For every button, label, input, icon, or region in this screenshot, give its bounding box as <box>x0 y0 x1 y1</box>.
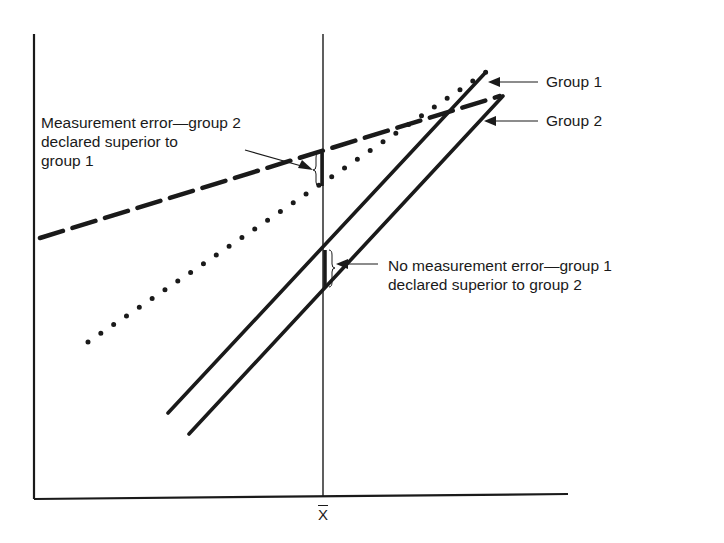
no-error-annotation-line2: declared superior to group 2 <box>388 275 582 294</box>
group2-arrowhead-icon <box>484 116 496 126</box>
group2-label: Group 2 <box>546 111 602 130</box>
x-axis <box>34 494 568 499</box>
measurement-error-brace-icon <box>313 153 319 186</box>
x-bar-tick-label: X <box>318 506 328 523</box>
measurement-error-annotation-line1: Measurement error—group 2 <box>41 113 241 132</box>
regression-diagram <box>0 0 724 543</box>
no-error-annotation-line1: No measurement error—group 1 <box>388 256 612 275</box>
group1-arrowhead-icon <box>488 77 500 87</box>
measurement-error-arrowhead-icon <box>298 160 313 170</box>
group1-label: Group 1 <box>546 72 602 91</box>
measurement-error-annotation-line3: group 1 <box>41 151 94 170</box>
measurement-error-annotation-line2: declared superior to <box>41 132 178 151</box>
